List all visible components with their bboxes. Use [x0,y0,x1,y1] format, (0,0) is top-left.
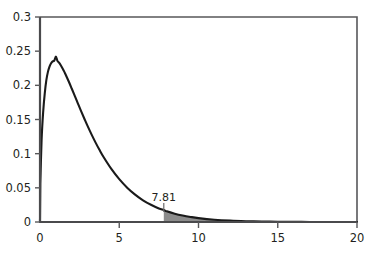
y-tick-label: 0.1 [13,147,31,161]
x-tick-label: 10 [191,231,206,245]
x-axis-ticks: 05101520 [36,222,364,245]
y-tick-label: 0 [24,215,31,229]
y-axis-ticks: 00.050.10.150.20.250.3 [5,10,40,229]
y-tick-label: 0.25 [5,44,31,58]
y-tick-label: 0.15 [5,113,31,127]
shaded-tail-region [164,210,357,222]
x-tick-label: 15 [270,231,285,245]
y-tick-label: 0.05 [5,181,31,195]
plot-frame [40,17,357,222]
critical-value-annotation: 7.81 [152,191,177,212]
y-tick-label: 0.2 [13,78,31,92]
y-tick-label: 0.3 [13,10,31,24]
critical-value-label: 7.81 [152,191,177,204]
chart-canvas: 00.050.10.150.20.250.3 05101520 7.81 [0,0,372,260]
x-tick-label: 0 [36,231,43,245]
chi-square-distribution-chart: 00.050.10.150.20.250.3 05101520 7.81 [0,0,372,260]
x-tick-label: 20 [350,231,365,245]
density-curve [40,57,357,222]
x-tick-label: 5 [116,231,123,245]
